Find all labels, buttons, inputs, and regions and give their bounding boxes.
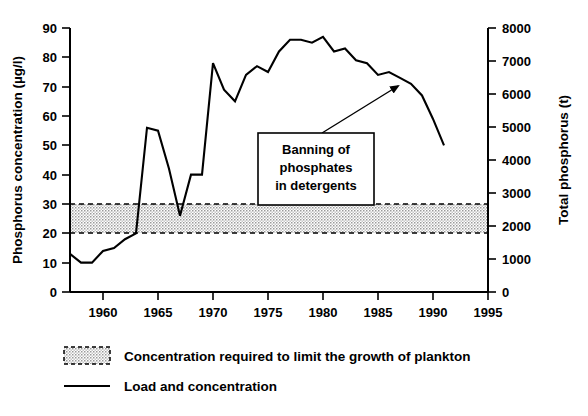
left-axis-title: Phosphorus concentration (µg/l)	[10, 56, 25, 264]
x-ticklabel-1965: 1965	[144, 305, 173, 320]
chart-legend: Concentration required to limit the grow…	[64, 347, 471, 394]
annotation-line-2: phosphates	[280, 160, 353, 175]
x-ticklabel-1975: 1975	[254, 305, 283, 320]
x-ticklabel-1990: 1990	[419, 305, 448, 320]
shaded-band-fill	[70, 204, 488, 233]
left-ticklabel-0: 0	[50, 285, 57, 300]
right-ticklabel-1000: 1000	[502, 252, 531, 267]
right-ticklabel-7000: 7000	[502, 54, 531, 69]
x-ticklabel-1985: 1985	[364, 305, 393, 320]
left-ticklabel-40: 40	[43, 168, 57, 183]
right-ticklabel-3000: 3000	[502, 186, 531, 201]
x-ticklabel-1960: 1960	[89, 305, 118, 320]
legend-label-line: Load and concentration	[124, 379, 277, 394]
left-ticklabel-10: 10	[43, 256, 57, 271]
left-y-axis: 90 80 70 60 50 40 30 20 10 0 Phosphorus …	[10, 21, 70, 300]
legend-swatch-band-icon	[64, 347, 110, 364]
legend-label-band: Concentration required to limit the grow…	[124, 349, 471, 364]
x-ticklabel-1995: 1995	[474, 305, 503, 320]
left-ticklabel-20: 20	[43, 226, 57, 241]
right-ticklabel-4000: 4000	[502, 153, 531, 168]
left-ticklabel-50: 50	[43, 138, 57, 153]
right-y-axis: 8000 7000 6000 5000 4000 3000 2000 1000 …	[488, 21, 571, 300]
banning-annotation: Banning of phosphates in detergents	[258, 86, 398, 205]
x-ticklabel-1980: 1980	[309, 305, 338, 320]
right-axis-title: Total phosphorus (t)	[556, 95, 571, 225]
left-ticklabel-70: 70	[43, 80, 57, 95]
chart-svg: 90 80 70 60 50 40 30 20 10 0 Phosphorus …	[0, 0, 588, 416]
x-ticklabel-1970: 1970	[199, 305, 228, 320]
right-ticklabel-6000: 6000	[502, 87, 531, 102]
legend-item-band: Concentration required to limit the grow…	[64, 347, 471, 364]
shaded-band-region	[70, 204, 488, 233]
annotation-arrow-icon	[322, 86, 398, 133]
annotation-line-3: in detergents	[275, 178, 357, 193]
legend-item-line: Load and concentration	[64, 379, 277, 394]
right-ticklabel-8000: 8000	[502, 21, 531, 36]
left-ticklabel-60: 60	[43, 109, 57, 124]
left-ticklabel-90: 90	[43, 21, 57, 36]
right-ticklabel-5000: 5000	[502, 120, 531, 135]
left-ticklabel-30: 30	[43, 197, 57, 212]
right-ticklabel-2000: 2000	[502, 219, 531, 234]
right-ticklabel-0: 0	[502, 285, 509, 300]
phosphorus-chart-figure: 90 80 70 60 50 40 30 20 10 0 Phosphorus …	[0, 0, 588, 416]
x-axis: 1960 1965 1970 1975 1980 1985 1990 1995	[70, 284, 502, 320]
left-ticklabel-80: 80	[43, 50, 57, 65]
annotation-line-1: Banning of	[282, 142, 351, 157]
